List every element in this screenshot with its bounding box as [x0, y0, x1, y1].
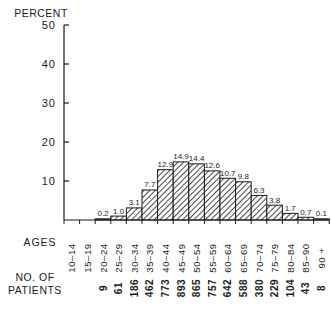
patient-count: 865 — [191, 279, 202, 298]
bar-value-label: 3.8 — [269, 196, 281, 205]
age-label: 15–19 — [82, 243, 93, 272]
bar-value-label: 6.3 — [253, 186, 265, 195]
patients-row-title-line1: NO. OF — [15, 271, 54, 283]
patient-count: 462 — [144, 279, 155, 298]
bar-value-label: 12.6 — [204, 161, 220, 170]
patient-counts: 961186462773893865757642588380229104438 — [98, 279, 327, 298]
age-label: 65–69 — [238, 243, 249, 272]
bar-70-74 — [251, 195, 267, 220]
bar-value-label: 7.7 — [144, 180, 156, 189]
age-label: 35–39 — [144, 243, 155, 272]
bar-value-label: 0.2 — [97, 209, 109, 218]
bar-value-label: 10.7 — [220, 169, 236, 178]
age-label: 80–84 — [285, 243, 296, 272]
patient-count: 104 — [285, 279, 296, 298]
age-label: 55–59 — [207, 243, 218, 272]
patients-row-title-line2: PATIENTS — [8, 284, 62, 296]
bar-75-79 — [267, 205, 283, 220]
y-tick-label: 50 — [42, 19, 56, 31]
bar-80-84 — [282, 213, 298, 220]
age-label: 30–34 — [129, 243, 140, 272]
age-labels: 10–1415–1920–2425–2930–3435–3940–4445–49… — [66, 243, 327, 272]
bars: 0.21.03.17.712.914.914.412.610.79.86.33.… — [95, 152, 329, 220]
age-label: 70–74 — [254, 243, 265, 272]
patient-count: 893 — [176, 279, 187, 298]
age-label: 10–14 — [66, 243, 77, 272]
y-axis: 1020304050 — [42, 19, 69, 220]
bar-40-44 — [158, 170, 174, 220]
x-axis — [64, 220, 329, 224]
age-label: 40–44 — [160, 243, 171, 272]
bar-value-label: 14.4 — [189, 154, 205, 163]
patient-count: 61 — [113, 282, 124, 294]
ages-row-title: AGES — [23, 236, 56, 248]
bar-35-39 — [142, 190, 158, 220]
patient-count: 380 — [254, 279, 265, 298]
age-label: 25–29 — [113, 243, 124, 272]
patient-count: 9 — [98, 285, 109, 291]
age-label: 60–64 — [222, 243, 233, 272]
y-tick-label: 30 — [42, 97, 56, 109]
bar-value-label: 9.8 — [238, 172, 250, 181]
age-label: 90 + — [316, 247, 327, 268]
patient-count: 773 — [160, 279, 171, 298]
bar-value-label: 1.7 — [285, 204, 297, 213]
patient-count: 642 — [222, 279, 233, 298]
patient-count: 229 — [269, 279, 280, 298]
age-label: 75–79 — [269, 243, 280, 272]
bar-60-64 — [220, 178, 236, 220]
bar-value-label: 14.9 — [173, 152, 189, 161]
y-tick-label: 20 — [42, 136, 56, 148]
age-distribution-histogram: PERCENT 1020304050 0.21.03.17.712.914.91… — [0, 0, 331, 311]
bar-45-49 — [173, 162, 189, 220]
bar-value-label: 3.1 — [129, 198, 141, 207]
age-label: 45–49 — [176, 243, 187, 272]
age-label: 50–54 — [191, 243, 202, 272]
y-tick-label: 10 — [42, 175, 56, 187]
patient-count: 588 — [238, 279, 249, 298]
bar-55-59 — [204, 171, 220, 220]
age-label: 20–24 — [98, 243, 109, 272]
bar-65-69 — [236, 182, 252, 220]
patient-count: 8 — [316, 285, 327, 291]
bar-50-54 — [189, 164, 205, 220]
y-tick-label: 40 — [42, 58, 56, 70]
bar-value-label: 0.7 — [300, 208, 312, 217]
patient-count: 186 — [129, 279, 140, 298]
bar-value-label: 1.0 — [113, 207, 125, 216]
age-label: 85–90 — [300, 243, 311, 272]
bar-value-label: 0.1 — [316, 209, 328, 218]
y-axis-title: PERCENT — [14, 7, 68, 19]
patient-count: 43 — [300, 282, 311, 294]
patient-count: 757 — [207, 279, 218, 298]
bar-30-34 — [126, 208, 142, 220]
bar-value-label: 12.9 — [158, 160, 174, 169]
